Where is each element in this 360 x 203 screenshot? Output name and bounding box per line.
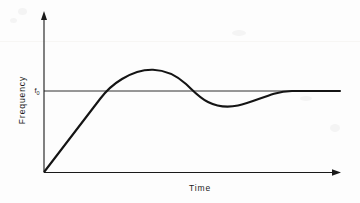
frequency-response-figure: Frequency Time f0 xyxy=(0,0,360,203)
y-axis-title: Frequency xyxy=(17,76,27,124)
plot-canvas xyxy=(0,0,360,203)
x-axis-arrow-icon xyxy=(332,169,341,175)
y-axis-tick-label-f0: f0 xyxy=(34,86,39,95)
frequency-response-curve xyxy=(45,70,341,172)
x-axis-title: Time xyxy=(189,183,211,193)
tick-label-subscript: 0 xyxy=(37,89,40,95)
y-axis-arrow-icon xyxy=(41,11,47,20)
